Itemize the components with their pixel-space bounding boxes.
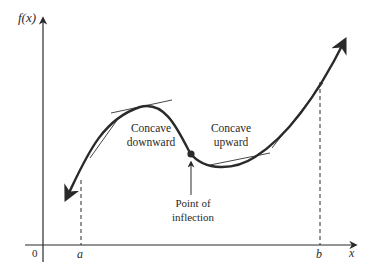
inflection-label-1: Point of (175, 197, 210, 209)
b-label: b (316, 247, 322, 261)
concave-up-label-1: Concave (211, 122, 251, 134)
inflection-point (187, 150, 194, 157)
origin-label: 0 (32, 247, 38, 259)
concave-up-label-2: upward (214, 136, 249, 149)
function-curve (66, 40, 345, 199)
concave-down-label-2: downward (127, 136, 176, 148)
a-label: a (77, 247, 83, 261)
concavity-diagram: f(x) x 0 a b Concave downward Concave up… (0, 0, 369, 279)
x-axis-label: x (348, 246, 355, 260)
tangent-line-left (90, 116, 120, 158)
y-axis-label: f(x) (18, 10, 36, 25)
concave-down-label-1: Concave (131, 122, 171, 134)
inflection-label-2: inflection (172, 211, 215, 223)
